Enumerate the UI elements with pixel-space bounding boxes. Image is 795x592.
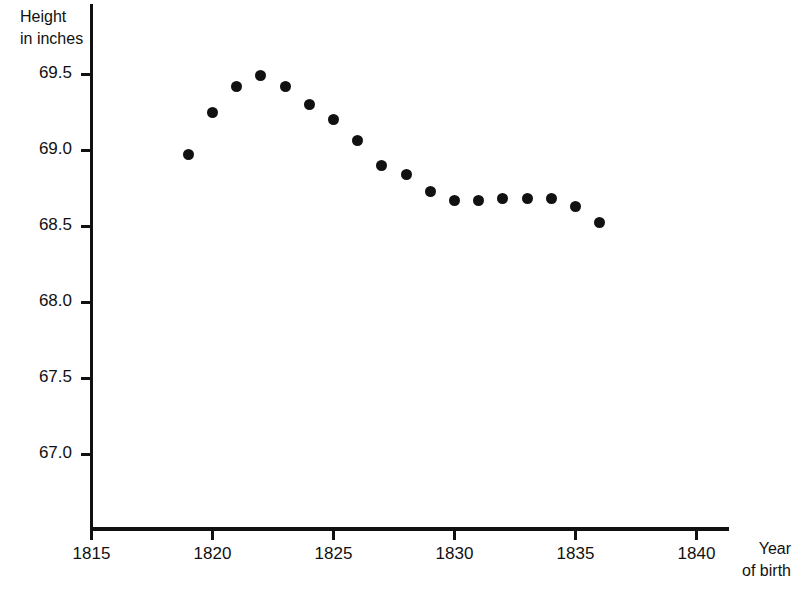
data-point: [328, 114, 339, 125]
data-point: [497, 193, 508, 204]
y-axis-tick: [81, 301, 90, 304]
data-point: [570, 201, 581, 212]
chart-figure: Height in inches Year of birth 67.067.56…: [0, 0, 795, 592]
data-point: [449, 195, 460, 206]
x-axis-tick-label: 1840: [678, 544, 716, 564]
data-point: [304, 99, 315, 110]
data-point: [231, 81, 242, 92]
x-axis-tick: [211, 530, 214, 540]
x-axis-tick: [574, 530, 577, 540]
y-axis-tick-label: 67.5: [39, 367, 72, 387]
data-point: [473, 195, 484, 206]
data-point: [522, 193, 533, 204]
plot-area: 67.067.568.068.569.069.51815182018251830…: [0, 0, 795, 592]
y-axis-tick: [81, 73, 90, 76]
data-point: [183, 149, 194, 160]
x-axis-tick-label: 1815: [73, 544, 111, 564]
data-point: [546, 193, 557, 204]
y-axis-tick: [81, 377, 90, 380]
data-point: [594, 217, 605, 228]
x-axis-tick: [90, 530, 93, 540]
y-axis-tick: [81, 225, 90, 228]
y-axis-tick: [81, 149, 90, 152]
x-axis-tick-label: 1830: [436, 544, 474, 564]
data-point: [255, 70, 266, 81]
y-axis-tick-label: 69.5: [39, 63, 72, 83]
data-point: [280, 81, 291, 92]
data-point: [425, 186, 436, 197]
data-point: [207, 107, 218, 118]
x-axis-tick-label: 1835: [557, 544, 595, 564]
x-axis-tick-label: 1820: [194, 544, 232, 564]
data-point: [376, 160, 387, 171]
x-axis-tick: [695, 530, 698, 540]
y-axis-tick-label: 68.0: [39, 291, 72, 311]
y-axis-tick-label: 67.0: [39, 443, 72, 463]
x-axis-tick: [453, 530, 456, 540]
data-point: [401, 169, 412, 180]
data-point: [352, 135, 363, 146]
y-axis-tick-label: 69.0: [39, 139, 72, 159]
y-axis-tick-label: 68.5: [39, 215, 72, 235]
x-axis-tick: [332, 530, 335, 540]
y-axis-tick: [81, 453, 90, 456]
x-axis-tick-label: 1825: [315, 544, 353, 564]
